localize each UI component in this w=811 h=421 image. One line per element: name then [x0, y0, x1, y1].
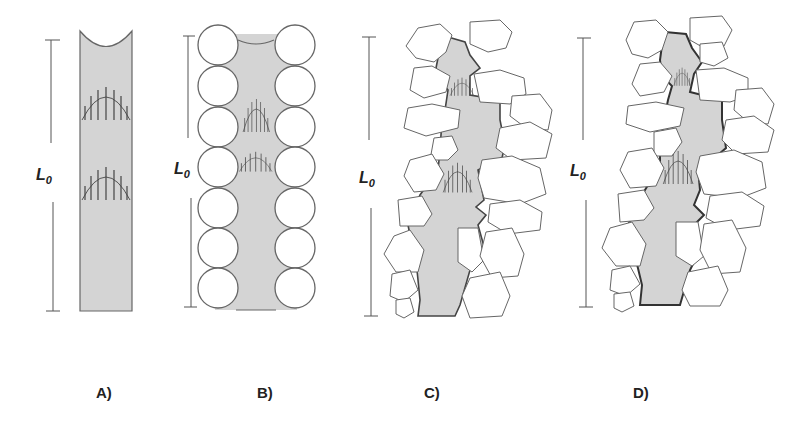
- length-label: L0: [570, 162, 587, 182]
- panel-label: B): [257, 384, 273, 401]
- panel-b: L0 B): [174, 25, 315, 401]
- panel-c: L0 C): [359, 20, 552, 401]
- panel-label: A): [96, 384, 112, 401]
- figure-canvas: L0 A) L0: [0, 0, 811, 421]
- panel-label: D): [633, 384, 649, 401]
- length-label: L0: [36, 166, 53, 186]
- panel-d: L0 D): [570, 16, 774, 401]
- panel-a: L0 A): [36, 31, 132, 401]
- panel-label: C): [424, 384, 440, 401]
- length-label: L0: [174, 160, 191, 180]
- length-label: L0: [359, 169, 376, 189]
